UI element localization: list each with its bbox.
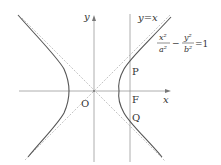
equation-minus: − [172, 38, 180, 48]
asymptote-y-equals-x [25, 15, 170, 160]
hyperbola-diagram: y x O y=x P F Q x² a² − y² b² =1 [0, 0, 221, 165]
point-f-label: F [132, 94, 139, 105]
y-axis-arrow-icon [92, 15, 96, 21]
point-q-label: Q [132, 112, 140, 123]
x-axis-label: x [163, 94, 169, 105]
equation-x-denominator: a² [159, 45, 167, 54]
asymptote-label: y=x [137, 12, 158, 23]
origin-label: O [81, 98, 89, 109]
x-axis-arrow-icon [165, 89, 171, 93]
hyperbola-left-branch [18, 15, 69, 157]
equation-y-numerator: y² [183, 33, 192, 42]
point-p-label: P [132, 66, 139, 77]
origin-point [93, 90, 95, 92]
equation-x-numerator: x² [159, 33, 167, 42]
y-axis-label: y [83, 11, 90, 22]
equation-y-denominator: b² [184, 45, 192, 54]
hyperbola-equation: x² a² − y² b² =1 [157, 33, 208, 54]
equation-rhs: =1 [195, 39, 208, 49]
